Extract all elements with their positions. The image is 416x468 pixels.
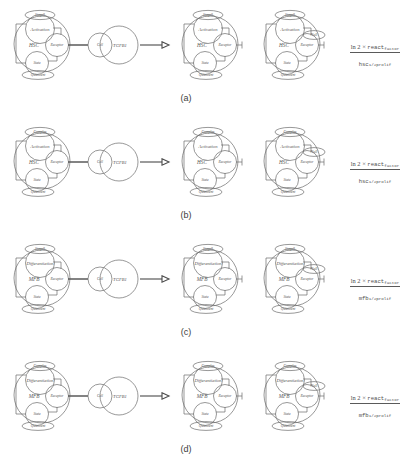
panel-c: Stage0DifferentiationMFBReceptorStateQui…: [0, 234, 416, 351]
process-label: Activation: [280, 27, 301, 32]
cell-name-label: MFB: [196, 393, 208, 399]
process-label: Differentiation: [275, 261, 304, 266]
bottom-ellipse-label: Quiescent: [281, 424, 296, 428]
product-complex-1: Stage0DifferentiationMFBReceptorStateQui…: [182, 244, 242, 313]
process-label: Differentiation: [193, 261, 222, 266]
receptor-label: Receptor: [50, 277, 65, 281]
state-label: State: [201, 178, 209, 182]
reaction-arrow-head: [162, 393, 169, 399]
bottom-ellipse-label: Quiescent: [199, 307, 214, 311]
null-label: Null: [310, 266, 319, 271]
receptor-label: Receptor: [218, 277, 233, 281]
reaction-arrow: [140, 159, 169, 165]
receptor-label: Receptor: [50, 43, 65, 47]
product-complex-1: ComplexDifferentiationMFBReceptorStateQu…: [182, 361, 242, 430]
receptor-label: Receptor: [300, 394, 315, 398]
process-label: Activation: [30, 27, 51, 32]
receptor-label: Receptor: [50, 394, 65, 398]
bottom-ellipse-label: Quiescent: [199, 190, 214, 194]
rate-formula: ln 2 × reactfactorhsc1/2prolif: [332, 153, 416, 187]
bottom-ellipse-label: Quiescent: [199, 424, 214, 428]
receptor-label: Receptor: [218, 43, 233, 47]
top-ellipse-label: Stage0: [35, 247, 45, 251]
ligand-tgfb-label: TGFB1: [113, 394, 127, 399]
bottom-ellipse-label: Quiescent: [31, 73, 46, 77]
bottom-ellipse-label: Quiescent: [31, 424, 46, 428]
bottom-ellipse-label: Quiescent: [31, 190, 46, 194]
reaction-arrow: [140, 393, 169, 399]
cell-name-label: HSC: [278, 42, 289, 48]
panel-caption: (b): [0, 210, 394, 220]
state-label: State: [33, 295, 41, 299]
ligand-complex: CellTGFB1: [88, 377, 138, 415]
cell-name-label: HSC: [196, 159, 207, 165]
receptor-label: Receptor: [218, 160, 233, 164]
product-complex-2: ComplexDifferentiationMFBReceptorStateQu…: [264, 361, 325, 430]
process-label: Activation: [198, 27, 219, 32]
reactant-complex: ComplexActivationHSCReceptorStateQuiesce…: [14, 127, 88, 196]
reactant-complex: Stage0DifferentiationMFBReceptorStateQui…: [14, 244, 88, 313]
state-label: State: [201, 61, 209, 65]
ligand-tgfb-label: TGFB1: [113, 160, 127, 165]
bottom-ellipse-label: Quiescent: [281, 307, 296, 311]
receptor-label: Receptor: [50, 160, 65, 164]
cell-name-label: MFB: [196, 276, 208, 282]
process-label: Activation: [30, 144, 51, 149]
null-label: Null: [310, 32, 319, 37]
ligand-tgfb-label: TGFB1: [113, 277, 127, 282]
state-label: State: [33, 178, 41, 182]
ligand-complex: CellTGFB1: [88, 26, 138, 64]
state-label: State: [201, 412, 209, 416]
cell-name-label: HSC: [28, 42, 39, 48]
bottom-ellipse-label: Quiescent: [281, 73, 296, 77]
process-label: Activation: [198, 144, 219, 149]
process-label: Activation: [280, 144, 301, 149]
cell-name-label: MFB: [28, 276, 40, 282]
state-label: State: [283, 295, 291, 299]
panel-d: ComplexDifferentiationMFBReceptorStateQu…: [0, 351, 416, 468]
panel-caption: (c): [0, 327, 394, 337]
cell-name-label: MFB: [278, 276, 290, 282]
panel-a: Stage0ActivationHSCReceptorStateQuiescen…: [0, 0, 416, 117]
rate-formula: ln 2 × reactfactorhsc1/2prolif: [332, 36, 416, 70]
state-label: State: [283, 178, 291, 182]
top-ellipse-label: Stage0: [203, 247, 213, 251]
reaction-arrow: [140, 276, 169, 282]
state-label: State: [283, 412, 291, 416]
reactant-complex: ComplexDifferentiationMFBReceptorStateQu…: [14, 361, 88, 430]
cell-name-label: HSC: [196, 42, 207, 48]
product-complex-2: ComplexActivationHSCReceptorStateQuiesce…: [264, 127, 325, 196]
null-label: Null: [310, 149, 319, 154]
state-label: State: [201, 295, 209, 299]
receptor-label: Receptor: [300, 160, 315, 164]
cell-name-label: HSC: [278, 159, 289, 165]
cell-name-label: MFB: [278, 393, 290, 399]
ligand-complex: CellTGFB1: [88, 260, 138, 298]
receptor-label: Receptor: [218, 394, 233, 398]
product-complex-1: Stage0ActivationHSCReceptorStateQuiescen…: [182, 10, 242, 79]
bottom-ellipse-label: Quiescent: [281, 190, 296, 194]
rate-formula: ln 2 × reactfactormfb1/2prolif: [332, 270, 416, 304]
reaction-arrow-head: [162, 42, 169, 48]
product-complex-1: ComplexActivationHSCReceptorStateQuiesce…: [182, 127, 242, 196]
cell-name-label: MFB: [28, 393, 40, 399]
top-ellipse-label: Stage0: [285, 247, 295, 251]
process-label: Differentiation: [25, 261, 54, 266]
panel-caption: (a): [0, 93, 394, 103]
state-label: State: [33, 61, 41, 65]
receptor-label: Receptor: [300, 43, 315, 47]
bottom-ellipse-label: Quiescent: [31, 307, 46, 311]
reactant-complex: Stage0ActivationHSCReceptorStateQuiescen…: [14, 10, 88, 79]
state-label: State: [283, 61, 291, 65]
panel-caption: (d): [0, 444, 394, 454]
top-ellipse-label: Stage0: [35, 13, 45, 17]
process-label: Differentiation: [275, 378, 304, 383]
reaction-arrow-head: [162, 159, 169, 165]
product-complex-2: Stage0DifferentiationMFBReceptorStateQui…: [264, 244, 325, 313]
cell-name-label: HSC: [28, 159, 39, 165]
process-label: Differentiation: [25, 378, 54, 383]
rate-formula: ln 2 × reactfactormfb1/2prolif: [332, 387, 416, 421]
panel-b: ComplexActivationHSCReceptorStateQuiesce…: [0, 117, 416, 234]
ligand-complex: CellTGFB1: [88, 143, 138, 181]
reaction-arrow: [140, 42, 169, 48]
